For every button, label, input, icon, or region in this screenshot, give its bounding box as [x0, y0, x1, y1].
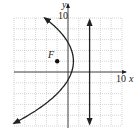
x-axis-label: x: [128, 73, 134, 84]
focus-label: F: [47, 49, 55, 60]
parabola-curve: [14, 18, 74, 123]
focus-point: [55, 59, 59, 63]
y-tick-label: 10: [58, 10, 68, 21]
y-axis-label: y: [61, 0, 67, 10]
parabola-graph: y 10 10 x F: [0, 0, 140, 136]
x-tick-label: 10: [116, 73, 126, 84]
